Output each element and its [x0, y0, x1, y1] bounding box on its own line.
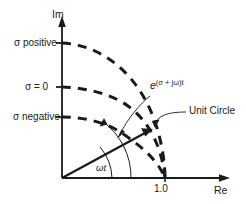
curve-sigma-zero: [62, 87, 165, 178]
figure-vector-graphics: [0, 0, 246, 204]
curve-label-sigma-negative: σ negative: [13, 112, 60, 122]
complex-plane-figure: Im Re 1.0 σ positive σ = 0 σ negative e(…: [0, 0, 246, 204]
unit-circle-annotation: Unit Circle: [189, 106, 235, 116]
angle-annotation-omega-t: ωt: [96, 163, 106, 173]
real-axis-label: Re: [214, 185, 227, 196]
imaginary-axis-ticks: [56, 43, 165, 182]
unit-tick-label: 1.0: [154, 184, 168, 194]
exponential-annotation: e(σ + jω)t: [150, 80, 184, 91]
real-axis-arrowhead: [219, 174, 230, 182]
unit-circle-label-leader: [156, 112, 186, 122]
imaginary-axis-label: Im: [52, 9, 64, 20]
exponential-label-leader: [120, 96, 150, 134]
curve-sigma-positive: [62, 43, 165, 178]
curve-label-sigma-positive: σ positive: [14, 38, 57, 48]
phasor-vector: [62, 128, 153, 178]
curve-label-sigma-zero: σ = 0: [25, 82, 48, 92]
exponential-exponent: (σ + jω)t: [156, 78, 184, 87]
